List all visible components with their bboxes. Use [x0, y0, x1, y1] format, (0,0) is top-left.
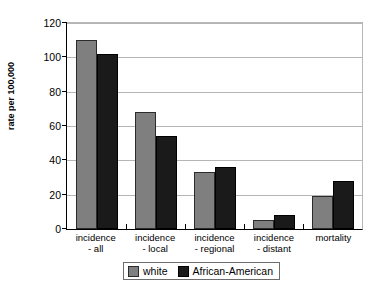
- y-axis-tick-label: 20: [49, 189, 67, 200]
- y-axis-title: rate per 100,000: [4, 62, 18, 130]
- bar: [76, 40, 97, 229]
- bar: [97, 54, 118, 229]
- chart-legend: whiteAfrican-American: [123, 262, 280, 280]
- bar: [253, 220, 274, 229]
- legend-label: white: [143, 265, 168, 277]
- bar-group: [185, 23, 244, 229]
- bar: [156, 136, 177, 229]
- x-axis-labels: incidence - allincidence - localincidenc…: [66, 233, 363, 254]
- y-axis-tick-label: 40: [49, 155, 67, 166]
- y-axis-tick-label: 100: [43, 52, 67, 63]
- legend-item: white: [128, 265, 168, 277]
- x-axis-category-label: incidence - distant: [244, 233, 303, 254]
- bar-groups: [67, 23, 362, 229]
- bar: [312, 196, 333, 229]
- bar-group: [244, 23, 303, 229]
- bar-group: [126, 23, 185, 229]
- y-axis-tick-label: 120: [43, 18, 67, 29]
- bar-group: [67, 23, 126, 229]
- x-axis-category-label: mortality: [304, 233, 363, 254]
- bar: [333, 181, 354, 229]
- legend-label: African-American: [193, 265, 274, 277]
- bar: [215, 167, 236, 229]
- bar: [135, 112, 156, 229]
- bar-chart: rate per 100,000 020406080100120 inciden…: [0, 0, 387, 297]
- legend-item: African-American: [178, 265, 274, 277]
- bar: [194, 172, 215, 229]
- bar-group: [303, 23, 362, 229]
- legend-swatch-icon: [128, 266, 139, 277]
- y-axis-tick-label: 60: [49, 121, 67, 132]
- y-axis-tick-label: 80: [49, 86, 67, 97]
- x-axis-category-label: incidence - local: [125, 233, 184, 254]
- bar: [274, 215, 295, 229]
- x-axis-category-label: incidence - all: [66, 233, 125, 254]
- plot-area: 020406080100120: [66, 22, 363, 230]
- x-axis-category-label: incidence - regional: [185, 233, 244, 254]
- legend-swatch-icon: [178, 266, 189, 277]
